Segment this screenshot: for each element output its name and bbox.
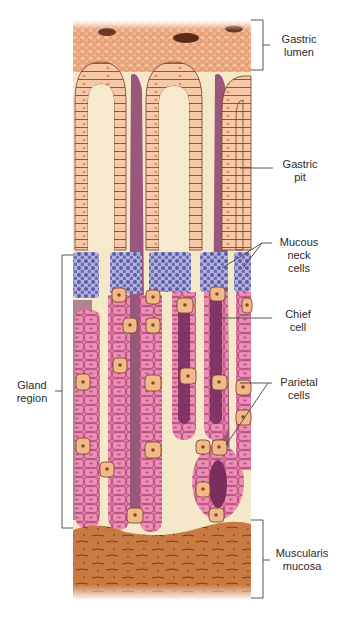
- label-chief-cell: Chief cell: [275, 308, 321, 334]
- label-gastric-lumen: Gastric lumen: [273, 33, 325, 59]
- label-muscularis-mucosa: Muscularis mucosa: [270, 547, 334, 573]
- tissue-block: [73, 20, 252, 600]
- label-mucous-neck-cells: Mucous neck cells: [273, 236, 325, 275]
- label-parietal-cells: Parietal cells: [272, 376, 326, 402]
- label-gland-region: Gland region: [10, 379, 54, 405]
- gastric-pits: [75, 62, 251, 250]
- label-gastric-pit: Gastric pit: [276, 158, 324, 184]
